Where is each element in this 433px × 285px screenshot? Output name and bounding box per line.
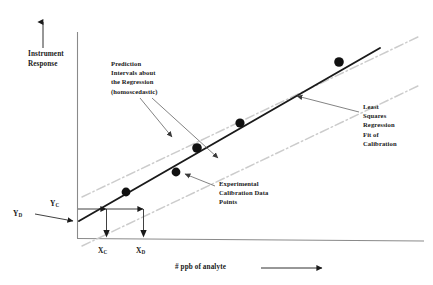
- least-squares-annotation: Least Squares Regression Fit of Calibrat…: [363, 102, 397, 148]
- prediction-interval-leader-2: [152, 98, 218, 158]
- experimental-points-leader: [185, 174, 215, 186]
- y-d-subscript: D: [18, 212, 22, 218]
- y-d-label: YD: [13, 209, 22, 219]
- prediction-intervals-annotation: Prediction Intervals about the Regressio…: [111, 59, 158, 96]
- y-c-subscript: C: [55, 202, 59, 208]
- x-d-label: XD: [136, 246, 145, 256]
- x-axis-label: # ppb of analyte: [175, 262, 226, 272]
- calibration-regression-figure: Instrument Response Prediction Intervals…: [0, 0, 433, 285]
- data-point: [235, 118, 244, 127]
- yd-leader-line: [35, 214, 73, 221]
- prediction-interval-leader-1: [140, 98, 172, 137]
- experimental-points-annotation: Experimental Calibration Data Points: [219, 179, 268, 207]
- xd-drop-arrowhead: [140, 230, 146, 238]
- y-c-label: YC: [50, 199, 59, 209]
- y-axis-label: Instrument Response: [28, 49, 64, 69]
- data-point: [192, 143, 202, 153]
- least-squares-leader: [297, 96, 359, 112]
- data-point: [172, 168, 181, 177]
- data-point: [334, 57, 344, 67]
- x-c-subscript: C: [103, 249, 107, 255]
- x-d-subscript: D: [141, 249, 145, 255]
- data-point: [122, 188, 131, 197]
- x-c-label: XC: [98, 246, 107, 256]
- x-axis: [77, 239, 424, 242]
